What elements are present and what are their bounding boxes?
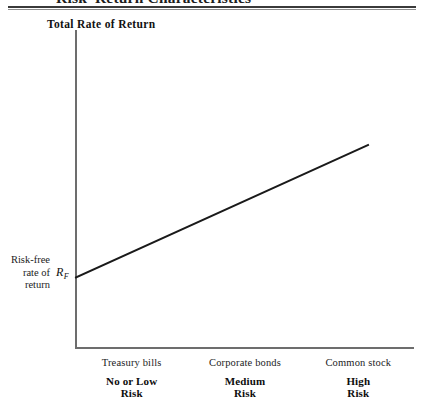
category-risk-line-1-treasury-bills: No or Low — [75, 375, 188, 387]
category-column-corporate-bonds: Corporate bonds Medium Risk — [188, 357, 301, 407]
category-risk-line-2-treasury-bills: Risk — [75, 387, 188, 399]
x-axis-line — [75, 347, 414, 349]
risk-free-symbol: RF — [56, 265, 68, 280]
risk-free-symbol-subscript: F — [64, 272, 69, 281]
category-risk-line-1-corporate-bonds: Medium — [188, 375, 301, 387]
figure-title: Risk–Return Characteristics — [56, 0, 396, 3]
y-axis-line — [75, 30, 77, 349]
category-risk-line-1-common-stock: High — [302, 375, 415, 387]
y-axis-label: Total Rate of Return — [47, 18, 155, 30]
risk-free-symbol-base: R — [56, 265, 63, 279]
category-risk-line-2-common-stock: Risk — [302, 387, 415, 399]
figure-canvas: Risk–Return Characteristics Total Rate o… — [0, 0, 424, 408]
category-risk-common-stock: High Risk — [302, 375, 415, 400]
category-risk-treasury-bills: No or Low Risk — [75, 375, 188, 400]
header-rule-secondary — [8, 9, 416, 10]
risk-free-caption: Risk-free rate of return — [0, 254, 50, 292]
category-labels: Treasury bills No or Low Risk Corporate … — [75, 357, 415, 407]
risk-free-caption-line-2: rate of — [0, 267, 50, 280]
category-column-common-stock: Common stock High Risk — [302, 357, 415, 407]
risk-return-line — [76, 145, 368, 278]
header-rule — [8, 6, 416, 8]
category-name-corporate-bonds: Corporate bonds — [188, 357, 301, 368]
category-risk-corporate-bonds: Medium Risk — [188, 375, 301, 400]
risk-free-caption-line-3: return — [0, 279, 50, 292]
category-column-treasury-bills: Treasury bills No or Low Risk — [75, 357, 188, 407]
category-risk-line-2-corporate-bonds: Risk — [188, 387, 301, 399]
category-name-common-stock: Common stock — [302, 357, 415, 368]
category-name-treasury-bills: Treasury bills — [75, 357, 188, 368]
risk-free-caption-line-1: Risk-free — [0, 254, 50, 267]
